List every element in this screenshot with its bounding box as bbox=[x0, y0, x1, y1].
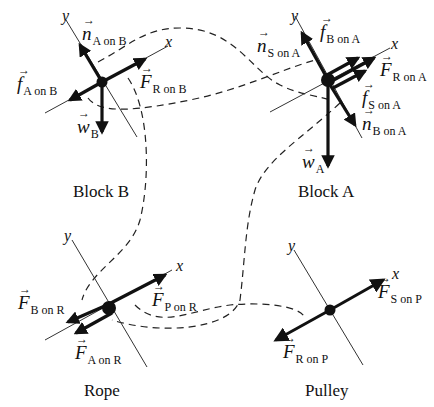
label-f-s-on-p: FS on P bbox=[378, 282, 422, 305]
label-f-b-on-a: fB on A bbox=[320, 22, 360, 45]
pair-rope-a bbox=[112, 103, 340, 328]
particle bbox=[321, 73, 335, 87]
panel-title-block-a: Block A bbox=[298, 183, 354, 200]
force-f-s-on-p bbox=[330, 280, 383, 310]
force-f-r-on-b bbox=[102, 59, 145, 82]
label-f-r-on-a: FR on A bbox=[380, 60, 427, 83]
label-f-p-on-r: FP on R bbox=[152, 290, 197, 313]
particle bbox=[325, 305, 336, 316]
force-n-a-on-b bbox=[80, 45, 102, 82]
diagram-canvas bbox=[0, 0, 434, 407]
label-n-a-on-b: nA on B bbox=[82, 24, 127, 47]
label-f-r-on-b: FR on B bbox=[140, 72, 187, 95]
label-n-s-on-a: nS on A bbox=[257, 36, 300, 59]
label-w-a: wA bbox=[302, 152, 324, 175]
y-axis-label: y bbox=[64, 228, 71, 244]
force-f-a-on-b bbox=[70, 82, 102, 100]
y-axis-label: y bbox=[62, 8, 69, 24]
x-axis-label: x bbox=[176, 258, 183, 274]
x-axis-label: x bbox=[165, 34, 172, 50]
y-axis-label: y bbox=[288, 238, 295, 254]
y-axis-label: y bbox=[291, 8, 298, 24]
particle bbox=[97, 77, 108, 88]
pair-friction-ab bbox=[88, 60, 315, 109]
label-w-b: wB bbox=[77, 117, 99, 140]
x-axis-label: x bbox=[392, 266, 399, 282]
particle bbox=[102, 301, 116, 315]
label-f-b-on-r: FB on R bbox=[18, 293, 65, 316]
panel-title-block-b: Block B bbox=[73, 183, 129, 200]
force-f-b-on-a bbox=[327, 58, 358, 75]
label-f-r-on-p: FR on P bbox=[283, 342, 328, 365]
panel-title-pulley: Pulley bbox=[305, 382, 348, 399]
label-f-a-on-r: FA on R bbox=[75, 343, 122, 366]
panel-title-rope: Rope bbox=[84, 382, 120, 399]
label-n-b-on-a: nB on A bbox=[362, 114, 407, 137]
force-n-b-on-a bbox=[327, 80, 355, 125]
label-f-a-on-b: fA on B bbox=[17, 74, 57, 97]
free-body-diagrams: y x nA on B FR on B fA on B wB Block B y… bbox=[0, 0, 434, 407]
